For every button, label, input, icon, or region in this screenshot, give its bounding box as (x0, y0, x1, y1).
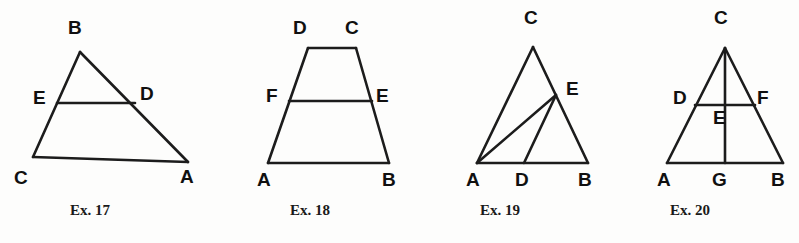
vertex-label-ex18-D: D (293, 18, 307, 37)
vertex-label-ex19-C: C (524, 8, 538, 27)
vertex-label-ex20-D: D (673, 88, 687, 107)
vertex-label-ex17-E: E (33, 88, 46, 107)
figure-ex19-lines (477, 47, 588, 163)
vertex-label-ex20-G: G (712, 170, 727, 189)
vertex-label-ex20-B: B (771, 170, 785, 189)
vertex-label-ex17-A: A (180, 167, 194, 186)
figure-board: BEDCADCFEABCEADBCDFEAGB Ex. 17Ex. 18Ex. … (0, 0, 799, 243)
vertex-label-ex18-C: C (345, 18, 359, 37)
figure-ex17-lines (33, 52, 188, 162)
vertex-label-ex18-F: F (266, 86, 278, 105)
vertex-label-ex20-E: E (713, 108, 726, 127)
vertex-label-ex18-B: B (382, 170, 396, 189)
vertex-label-ex19-E: E (566, 79, 579, 98)
segment-DE (524, 95, 556, 163)
vertex-label-ex20-A: A (657, 170, 671, 189)
segment-CA (33, 157, 188, 162)
vertex-label-ex19-D: D (515, 170, 529, 189)
segment-CB (533, 47, 588, 163)
vertex-label-ex20-F: F (757, 88, 769, 107)
segment-CA (477, 47, 533, 163)
vertex-label-ex17-D: D (140, 84, 154, 103)
caption-ex20: Ex. 20 (670, 203, 710, 218)
segment-BA (80, 52, 188, 162)
vertex-label-ex18-E: E (376, 86, 389, 105)
caption-ex17: Ex. 17 (70, 203, 110, 218)
vertex-label-ex19-A: A (466, 170, 480, 189)
caption-ex19: Ex. 19 (480, 203, 520, 218)
segment-AE (477, 95, 556, 163)
figure-ex18-lines (268, 48, 389, 163)
caption-ex18: Ex. 18 (290, 203, 330, 218)
vertex-label-ex17-B: B (68, 18, 82, 37)
vertex-label-ex18-A: A (257, 170, 271, 189)
vertex-label-ex19-B: B (578, 170, 592, 189)
vertex-label-ex17-C: C (14, 168, 28, 187)
vertex-label-ex20-C: C (714, 8, 728, 27)
